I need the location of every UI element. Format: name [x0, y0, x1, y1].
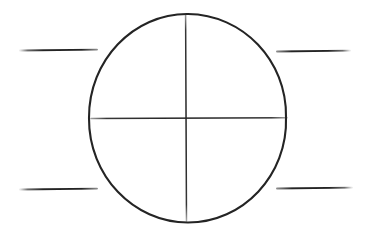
stadia-line-top-left [20, 50, 97, 51]
crosshair-horizontal-line [91, 118, 287, 119]
figure-canvas [0, 0, 368, 241]
stadia-line-bottom-left [20, 189, 97, 190]
stadia-line-top-right [277, 51, 350, 52]
reticle-diagram [0, 0, 368, 241]
figure-background [0, 0, 368, 241]
stadia-line-bottom-right [277, 188, 352, 189]
